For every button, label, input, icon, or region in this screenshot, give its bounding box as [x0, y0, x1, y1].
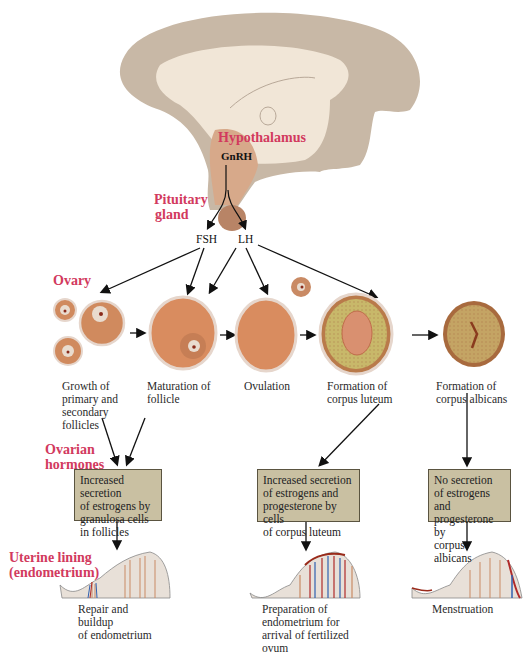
uterine-lining-label-1: Uterine lining — [9, 550, 92, 565]
pituitary-label-1: Pituitary — [154, 192, 208, 207]
corpus-albicans — [443, 301, 505, 367]
stage-corpus-luteum-label: Formation of corpus luteum — [327, 380, 392, 406]
pituitary-gland — [218, 205, 246, 231]
ovulating-follicle — [236, 277, 311, 371]
mature-follicle — [150, 297, 216, 369]
brain-illustration — [120, 13, 420, 210]
box-corpus-luteum-secretion: Increased secretion of estrogens and pro… — [257, 469, 360, 522]
stage-ovulation-label: Ovulation — [244, 380, 290, 393]
uterine-stage-menstruation-label: Menstruation — [432, 603, 493, 616]
ovarian-hormones-label-1: Ovarian — [45, 442, 95, 457]
ovary-label: Ovary — [53, 273, 91, 288]
box-follicle-secretion: Increased secretion of estrogens by gran… — [74, 469, 162, 521]
gnrh-label: GnRH — [221, 150, 252, 162]
uterine-stage-repair-label: Repair and buildup of endometrium — [78, 603, 152, 642]
fsh-label: FSH — [196, 233, 217, 245]
endometrium-preparation — [250, 552, 360, 598]
uterine-lining-label-2: (endometrium) — [9, 565, 99, 580]
stage-maturation-label: Maturation of follicle — [147, 380, 211, 406]
pituitary-label-2: gland — [155, 207, 188, 222]
stage-corpus-albicans-label: Formation of corpus albicans — [436, 380, 507, 406]
hypothalamus-label: Hypothalamus — [218, 130, 306, 145]
corpus-luteum — [320, 294, 392, 374]
lh-label: LH — [238, 233, 253, 245]
stage-growth-label: Growth of primary and secondary follicle… — [62, 380, 118, 432]
box-corpus-albicans-secretion: No secretion of estrogens and progestero… — [428, 469, 511, 522]
uterine-stage-preparation-label: Preparation of endometrium for arrival o… — [262, 603, 349, 655]
primary-follicles — [54, 299, 124, 365]
